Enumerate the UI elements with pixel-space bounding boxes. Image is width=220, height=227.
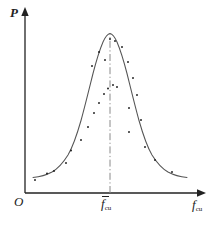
data-point: [171, 171, 173, 173]
data-point: [98, 102, 100, 104]
data-point: [128, 107, 130, 109]
data-point: [98, 51, 100, 53]
data-point: [128, 131, 130, 133]
data-point: [93, 112, 95, 114]
data-point: [144, 146, 146, 148]
origin-label: O: [14, 195, 23, 208]
data-point: [65, 162, 67, 164]
distribution-plot: [0, 0, 220, 227]
mean-label-base: f: [101, 196, 105, 211]
data-point: [107, 88, 109, 90]
data-point: [104, 59, 106, 61]
x-axis-arrowhead: [197, 189, 206, 196]
mean-overbar-group: f: [101, 196, 105, 210]
mean-tick-label: fcu: [101, 196, 111, 212]
x-axis-label: fcu: [192, 198, 202, 213]
data-point: [46, 173, 48, 175]
data-point: [109, 38, 111, 40]
data-point: [116, 86, 118, 88]
data-point: [112, 84, 114, 86]
overbar: [102, 196, 109, 197]
data-point: [127, 61, 129, 63]
figure-container: P O fcu fcu: [0, 0, 220, 227]
x-axis-label-subscript: cu: [196, 205, 203, 213]
data-point: [91, 65, 93, 67]
figure-caption: [0, 214, 220, 227]
data-point: [121, 46, 123, 48]
mean-label-subscript: cu: [105, 204, 112, 212]
data-point: [132, 77, 134, 79]
data-point: [70, 150, 72, 152]
data-point: [136, 94, 138, 96]
data-point: [34, 179, 36, 181]
data-point: [80, 139, 82, 141]
measured-sample-points: [34, 38, 173, 181]
y-axis-label: P: [10, 6, 18, 19]
data-point: [154, 159, 156, 161]
data-point: [87, 126, 89, 128]
data-point: [103, 93, 105, 95]
data-point: [53, 170, 55, 172]
data-point: [114, 40, 116, 42]
y-axis-arrowhead: [21, 7, 28, 16]
data-point: [140, 119, 142, 121]
